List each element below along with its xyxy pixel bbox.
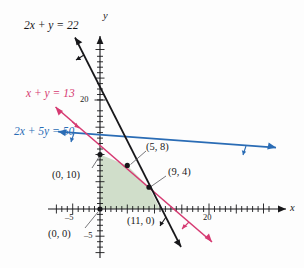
x-axis-arrowhead [278,206,286,213]
linear-programming-graph: 2x + y = 22 x + y = 13 2x + 5y = 50 (5, … [0,0,304,268]
equation-text-pink: x + y = 13 [26,87,75,99]
y-tick-text-20: 20 [80,94,89,104]
y-axis-arrowhead [97,36,104,44]
vertex-5-8 [125,163,130,168]
vertex-9-4 [146,185,151,190]
vertex-0-10 [97,152,102,157]
equation-label-black: 2x + y = 22 [24,20,78,32]
equation-text-black: 2x + y = 22 [24,19,78,31]
feasible-region-fill [100,155,160,210]
y-axis-label: y [103,11,108,22]
y-axis-label-text: y [103,10,108,21]
point-text-9-4: (9, 4) [168,166,191,177]
equation-text-blue: 2x + 5y = 50 [14,125,74,137]
point-text-5-8: (5, 8) [146,141,169,152]
x-tick-label-neg5: –5 [65,213,74,222]
point-text-0-0: (0, 0) [48,228,71,239]
point-text-0-10: (0, 10) [52,169,80,180]
point-label-0-10: (0, 10) [52,170,80,181]
x-axis-label: x [290,203,295,214]
point-label-5-8: (5, 8) [146,142,169,153]
equation-label-pink: x + y = 13 [26,88,75,100]
equation-label-blue: 2x + 5y = 50 [14,126,74,138]
x-axis-label-text: x [290,202,295,213]
y-tick-label-neg5: –5 [84,231,93,240]
point-label-11-0: (11, 0) [127,216,155,227]
x-tick-text-20: 20 [203,212,212,222]
x-tick-text-neg5: –5 [65,212,74,222]
y-tick-text-neg5: –5 [84,230,93,240]
y-tick-label-20: 20 [80,95,89,104]
x-tick-label-20: 20 [203,213,212,222]
vertex-0-0 [97,206,102,211]
point-label-0-0: (0, 0) [48,229,71,240]
point-label-9-4: (9, 4) [168,167,191,178]
point-text-11-0: (11, 0) [127,215,155,226]
